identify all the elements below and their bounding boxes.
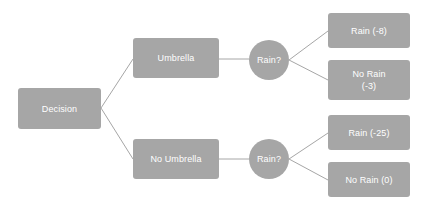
node-decision[interactable]: Decision: [18, 88, 101, 129]
node-outcome-rain-8[interactable]: Rain (-8): [328, 13, 410, 48]
node-no-umbrella[interactable]: No Umbrella: [133, 139, 219, 179]
node-umbrella[interactable]: Umbrella: [133, 38, 219, 78]
node-rain-chance-bottom[interactable]: Rain?: [249, 139, 289, 179]
diagram-canvas: Decision Umbrella No Umbrella Rain? Rain…: [0, 0, 429, 211]
node-outcome-no-rain-3[interactable]: No Rain (-3): [328, 60, 410, 100]
edge-rain-bottom-norain0: [289, 159, 328, 180]
node-outcome-no-rain-0-label: No Rain (0): [342, 174, 395, 186]
node-rain-chance-top-label: Rain?: [254, 54, 284, 66]
edge-decision-no-umbrella: [101, 108, 133, 159]
node-outcome-rain-25[interactable]: Rain (-25): [328, 115, 410, 150]
edge-rain-top-norain3: [289, 60, 328, 80]
edge-rain-bottom-rain25: [289, 133, 328, 159]
node-rain-chance-bottom-label: Rain?: [254, 153, 284, 165]
node-decision-label: Decision: [39, 103, 80, 115]
edge-rain-top-rain8: [289, 31, 328, 60]
node-no-umbrella-label: No Umbrella: [147, 153, 204, 165]
node-outcome-no-rain-3-label: No Rain (-3): [349, 68, 388, 92]
node-rain-chance-top[interactable]: Rain?: [249, 40, 289, 80]
node-outcome-rain-25-label: Rain (-25): [345, 127, 392, 139]
node-umbrella-label: Umbrella: [155, 52, 198, 64]
edge-decision-umbrella: [101, 59, 133, 108]
node-outcome-rain-8-label: Rain (-8): [348, 25, 390, 37]
node-outcome-no-rain-0[interactable]: No Rain (0): [328, 162, 410, 197]
